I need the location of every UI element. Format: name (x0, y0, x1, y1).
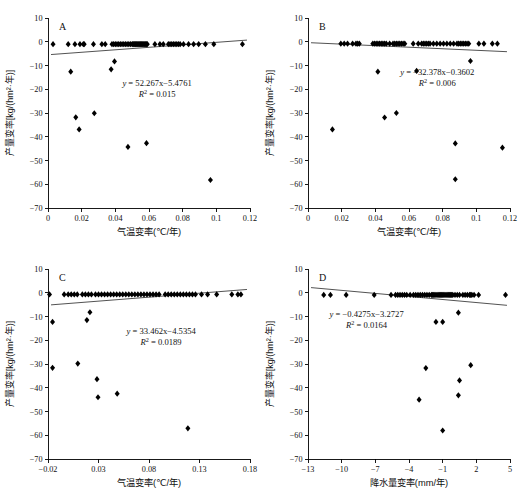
svg-text:0.06: 0.06 (402, 214, 416, 223)
svg-text:气温变率(℃/年): 气温变率(℃/年) (117, 477, 181, 488)
svg-text:−70: −70 (30, 204, 43, 213)
svg-text:y = −32.378x−0.3602: y = −32.378x−0.3602 (399, 67, 474, 77)
svg-text:−60: −60 (290, 431, 303, 440)
svg-text:0: 0 (306, 214, 310, 223)
figure-four-panel-scatter: 100−10−20−30−40−50−60−7000.020.040.060.0… (0, 0, 520, 503)
svg-text:−40: −40 (30, 133, 43, 142)
svg-text:B: B (319, 21, 326, 32)
svg-text:−40: −40 (290, 133, 303, 142)
svg-text:0: 0 (298, 38, 302, 47)
svg-text:−30: −30 (290, 360, 303, 369)
svg-text:−20: −20 (30, 336, 43, 345)
svg-text:−60: −60 (30, 180, 43, 189)
svg-text:0.08: 0.08 (176, 214, 190, 223)
svg-text:−13: −13 (302, 465, 315, 474)
svg-text:−0.02: −0.02 (39, 465, 58, 474)
svg-text:−40: −40 (30, 384, 43, 393)
svg-text:−50: −50 (290, 408, 303, 417)
svg-text:−60: −60 (290, 180, 303, 189)
svg-text:−10: −10 (335, 465, 348, 474)
svg-text:0: 0 (38, 289, 42, 298)
svg-text:5: 5 (508, 465, 512, 474)
svg-text:气温变率(℃/年): 气温变率(℃/年) (117, 226, 181, 237)
svg-text:y = 52.267x−5.4761: y = 52.267x−5.4761 (121, 78, 191, 88)
svg-text:0.03: 0.03 (91, 465, 105, 474)
svg-text:0.04: 0.04 (368, 214, 382, 223)
svg-text:0.1: 0.1 (211, 214, 221, 223)
svg-text:0.18: 0.18 (243, 465, 257, 474)
svg-text:10: 10 (34, 265, 42, 274)
svg-text:10: 10 (294, 265, 302, 274)
svg-text:y = −0.4275x−3.2727: y = −0.4275x−3.2727 (328, 309, 404, 319)
svg-text:10: 10 (34, 14, 42, 23)
svg-text:−20: −20 (290, 336, 303, 345)
svg-text:产量变率[kg/(hm²·年)]: 产量变率[kg/(hm²·年)] (4, 70, 15, 157)
svg-text:−50: −50 (290, 157, 303, 166)
svg-text:y = 33.462x−4.5354: y = 33.462x−4.5354 (125, 326, 196, 336)
svg-text:−10: −10 (290, 62, 303, 71)
svg-text:−30: −30 (290, 109, 303, 118)
panel-B: 100−10−20−30−40−50−60−7000.020.040.060.0… (260, 0, 520, 251)
svg-text:0.06: 0.06 (142, 214, 156, 223)
svg-text:−60: −60 (30, 431, 43, 440)
svg-text:0.1: 0.1 (471, 214, 481, 223)
svg-text:C: C (59, 272, 66, 283)
svg-text:0.08: 0.08 (436, 214, 450, 223)
panel-D: 100−10−20−30−40−50−60−70−13−10−7−4−125降水… (260, 251, 520, 502)
svg-text:产量变率[kg/(hm²·年)]: 产量变率[kg/(hm²·年)] (4, 321, 15, 408)
svg-text:降水量变率(mm/年): 降水量变率(mm/年) (370, 477, 448, 488)
svg-text:R2 = 0.015: R2 = 0.015 (138, 88, 176, 100)
svg-text:0.13: 0.13 (192, 465, 206, 474)
svg-text:0.04: 0.04 (108, 214, 122, 223)
panel-C: 100−10−20−30−40−50−60−70−0.020.030.080.1… (0, 251, 260, 502)
svg-text:−30: −30 (30, 360, 43, 369)
svg-text:2: 2 (474, 465, 478, 474)
svg-text:−40: −40 (290, 384, 303, 393)
svg-text:0: 0 (38, 38, 42, 47)
svg-text:0.08: 0.08 (142, 465, 156, 474)
svg-text:−50: −50 (30, 157, 43, 166)
svg-text:−7: −7 (371, 465, 380, 474)
panel-A: 100−10−20−30−40−50−60−7000.020.040.060.0… (0, 0, 260, 251)
svg-text:0.02: 0.02 (335, 214, 349, 223)
svg-text:D: D (319, 272, 326, 283)
svg-text:0.12: 0.12 (243, 214, 257, 223)
svg-text:0.02: 0.02 (75, 214, 89, 223)
svg-text:−30: −30 (30, 109, 43, 118)
svg-text:R2 = 0.006: R2 = 0.006 (418, 77, 457, 89)
svg-text:气温变率(℃/年): 气温变率(℃/年) (377, 226, 441, 237)
svg-text:R2 = 0.0189: R2 = 0.0189 (140, 335, 182, 347)
svg-text:产量变率[kg/(hm²·年)]: 产量变率[kg/(hm²·年)] (264, 321, 275, 408)
svg-text:R2 = 0.0164: R2 = 0.0164 (345, 319, 388, 331)
svg-text:0: 0 (298, 289, 302, 298)
svg-text:−10: −10 (290, 313, 303, 322)
svg-text:−1: −1 (438, 465, 447, 474)
svg-text:−20: −20 (30, 85, 43, 94)
svg-text:−50: −50 (30, 408, 43, 417)
svg-text:−20: −20 (290, 85, 303, 94)
svg-text:10: 10 (294, 14, 302, 23)
svg-text:产量变率[kg/(hm²·年)]: 产量变率[kg/(hm²·年)] (264, 70, 275, 157)
svg-text:−10: −10 (30, 62, 43, 71)
svg-text:−70: −70 (30, 455, 43, 464)
svg-text:−70: −70 (290, 204, 303, 213)
svg-text:0: 0 (46, 214, 50, 223)
svg-text:−70: −70 (290, 455, 303, 464)
svg-text:A: A (59, 21, 67, 32)
svg-text:−10: −10 (30, 313, 43, 322)
svg-text:0.12: 0.12 (503, 214, 517, 223)
svg-text:−4: −4 (405, 465, 414, 474)
